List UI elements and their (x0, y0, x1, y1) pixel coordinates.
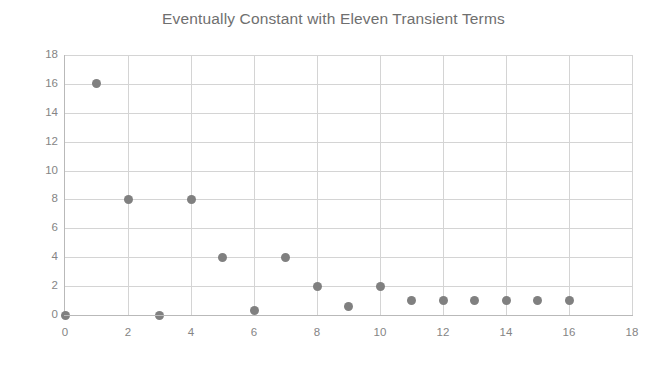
data-point (124, 195, 133, 204)
y-tick-label-6: 6 (28, 222, 58, 234)
x-axis-tick-labels: 024681012141618 (65, 327, 632, 347)
data-point (313, 282, 322, 291)
x-tick-label-14: 14 (486, 327, 526, 339)
y-tick-label-2: 2 (28, 280, 58, 292)
y-tick-label-4: 4 (28, 251, 58, 263)
gridline-x-18 (632, 55, 633, 315)
y-tick-label-12: 12 (28, 136, 58, 148)
x-tick-label-10: 10 (360, 327, 400, 339)
plot-area (65, 55, 632, 315)
data-point (187, 195, 196, 204)
x-tick-label-6: 6 (234, 327, 274, 339)
gridline-x-2 (128, 55, 129, 315)
y-tick-label-16: 16 (28, 78, 58, 90)
x-tick-label-16: 16 (549, 327, 589, 339)
data-point (344, 302, 353, 311)
y-tick-label-14: 14 (28, 107, 58, 119)
data-point (250, 306, 259, 315)
gridline-y-12 (65, 142, 632, 143)
gridline-y-14 (65, 113, 632, 114)
x-axis-line (64, 315, 633, 316)
gridline-x-10 (380, 55, 381, 315)
gridline-y-6 (65, 228, 632, 229)
data-point (218, 253, 227, 262)
data-point (407, 296, 416, 305)
y-tick-label-0: 0 (28, 309, 58, 321)
y-tick-label-8: 8 (28, 193, 58, 205)
data-point (533, 296, 542, 305)
x-tick-label-18: 18 (612, 327, 652, 339)
gridline-x-4 (191, 55, 192, 315)
data-point (439, 296, 448, 305)
data-point (470, 296, 479, 305)
x-tick-label-0: 0 (45, 327, 85, 339)
gridline-y-8 (65, 199, 632, 200)
x-tick-label-8: 8 (297, 327, 337, 339)
gridline-y-18 (65, 55, 632, 56)
gridline-x-12 (443, 55, 444, 315)
gridline-y-16 (65, 84, 632, 85)
x-tick-label-12: 12 (423, 327, 463, 339)
data-point (376, 282, 385, 291)
data-point (281, 253, 290, 262)
gridline-x-14 (506, 55, 507, 315)
y-axis-tick-labels: 024681012141618 (22, 55, 58, 315)
gridline-y-10 (65, 171, 632, 172)
gridline-y-2 (65, 286, 632, 287)
chart-title: Eventually Constant with Eleven Transien… (0, 10, 667, 28)
data-point (565, 296, 574, 305)
chart-figure: Eventually Constant with Eleven Transien… (0, 0, 667, 365)
data-point (92, 79, 101, 88)
x-tick-label-4: 4 (171, 327, 211, 339)
y-tick-label-18: 18 (28, 49, 58, 61)
y-tick-label-10: 10 (28, 165, 58, 177)
gridline-y-4 (65, 257, 632, 258)
x-tick-label-2: 2 (108, 327, 148, 339)
data-point (502, 296, 511, 305)
gridline-x-16 (569, 55, 570, 315)
gridline-x-8 (317, 55, 318, 315)
gridline-x-6 (254, 55, 255, 315)
